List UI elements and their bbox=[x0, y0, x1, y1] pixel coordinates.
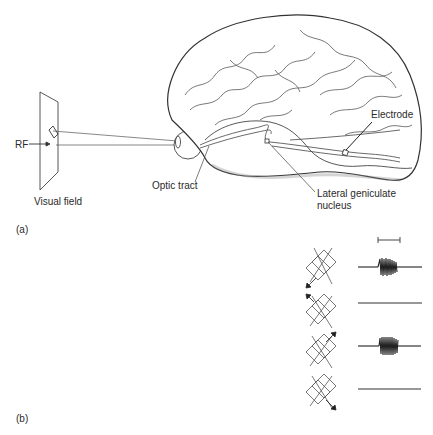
panel-a-label: (a) bbox=[16, 224, 28, 235]
visual-field-label: Visual field bbox=[34, 196, 82, 207]
brain-illustration bbox=[168, 15, 421, 180]
stimulus-icon-up-right bbox=[306, 332, 336, 368]
visual-field-plane bbox=[40, 92, 58, 190]
stimulus-icon-down-left bbox=[306, 248, 336, 288]
stimulus-icon-up-left bbox=[306, 294, 336, 328]
rf-arrow bbox=[29, 142, 50, 146]
lgn-label-line1: Lateral geniculate bbox=[317, 188, 396, 199]
response-trace-3 bbox=[358, 337, 421, 355]
lgn-label-line2: nucleus bbox=[317, 200, 351, 211]
stimulus-icon-down-right bbox=[306, 374, 336, 410]
figure-canvas bbox=[0, 0, 433, 435]
time-scale-bar bbox=[378, 237, 400, 243]
panel-b-label: (b) bbox=[16, 413, 28, 424]
optic-tract-label: Optic tract bbox=[152, 180, 198, 191]
electrode-label: Electrode bbox=[371, 109, 413, 120]
rf-label: RF bbox=[15, 139, 28, 150]
response-trace-1 bbox=[358, 258, 422, 276]
